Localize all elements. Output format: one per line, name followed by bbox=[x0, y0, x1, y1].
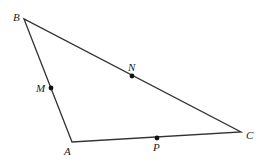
point-p-dot bbox=[155, 136, 160, 141]
triangle-svg: B A C M N P bbox=[0, 0, 266, 162]
label-c: C bbox=[246, 129, 254, 141]
triangle-abc bbox=[24, 19, 241, 142]
label-m: M bbox=[35, 82, 46, 94]
label-a: A bbox=[63, 145, 71, 157]
label-p: P bbox=[152, 141, 160, 153]
triangle-diagram: B A C M N P bbox=[0, 0, 266, 162]
point-n-dot bbox=[130, 74, 135, 79]
point-m-dot bbox=[49, 86, 54, 91]
label-b: B bbox=[13, 11, 20, 23]
label-n: N bbox=[127, 61, 136, 73]
